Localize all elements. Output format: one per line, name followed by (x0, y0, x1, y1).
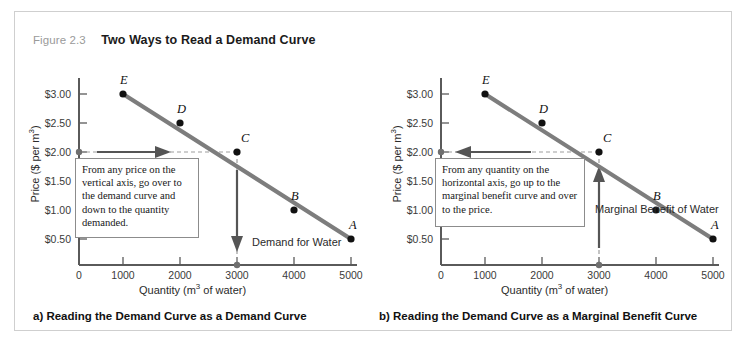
axis-marker-quantity (596, 262, 602, 268)
y-axis-title: Price ($ per m3) (391, 104, 403, 224)
callout-text-demand: From any price on the vertical axis, go … (75, 158, 199, 238)
data-point-C (595, 148, 602, 155)
x-tick-label-0: 0 (56, 269, 102, 281)
figure-title: Two Ways to Read a Demand Curve (101, 33, 315, 47)
x-tick-label-4000: 4000 (633, 269, 679, 281)
axis-marker-quantity (234, 262, 240, 268)
point-label-A: A (349, 218, 357, 233)
x-tick-label-2000: 2000 (157, 269, 203, 281)
panel-demand-curve: $3.00 $2.50 $2.00 $1.50 $1.00 $0.50 0 10… (19, 52, 371, 314)
data-point-D (176, 119, 183, 126)
data-point-A (709, 235, 716, 242)
point-label-C: C (603, 131, 611, 146)
point-label-D: D (177, 102, 186, 117)
figure-container: Figure 2.3 Two Ways to Read a Demand Cur… (14, 11, 732, 331)
x-axis-title: Quantity (m3 of water) (501, 284, 608, 296)
x-tick-label-1000: 1000 (462, 269, 508, 281)
x-axis-title: Quantity (m3 of water) (139, 284, 246, 296)
x-tick-label-0: 0 (418, 269, 464, 281)
x-tick-label-3000: 3000 (576, 269, 622, 281)
x-tick-label-5000: 5000 (328, 269, 374, 281)
arrow-curve-to-quantity (231, 170, 243, 252)
y-axis-title: Price ($ per m3) (29, 104, 41, 224)
point-label-C: C (241, 131, 249, 146)
panel-marginal-benefit-curve: $3.00 $2.50 $2.00 $1.50 $1.00 $0.50 0 10… (381, 52, 733, 314)
point-label-B: B (653, 189, 661, 204)
axis-marker-price (438, 149, 444, 155)
x-tick-label-2000: 2000 (519, 269, 565, 281)
x-tick-label-1000: 1000 (100, 269, 146, 281)
y-tick-label-3.00: $3.00 (27, 88, 71, 100)
data-point-D (538, 119, 545, 126)
y-tick-label-0.50: $0.50 (27, 233, 71, 245)
axis-marker-price (76, 149, 82, 155)
y-tick-label-3.00: $3.00 (389, 88, 433, 100)
point-label-E: E (120, 73, 128, 88)
data-point-C (233, 148, 240, 155)
point-label-D: D (539, 102, 548, 117)
caption-panel-a: a) Reading the Demand Curve as a Demand … (33, 310, 307, 322)
point-label-E: E (482, 73, 490, 88)
data-point-A (347, 235, 354, 242)
figure-number: Figure 2.3 (33, 34, 86, 46)
x-tick-label-4000: 4000 (271, 269, 317, 281)
y-tick-label-0.50: $0.50 (389, 233, 433, 245)
arrow-price-to-curve (97, 146, 171, 158)
caption-panel-b: b) Reading the Demand Curve as a Margina… (379, 310, 697, 322)
arrow-curve-to-price (455, 146, 531, 158)
point-label-B: B (291, 189, 299, 204)
data-point-E (119, 90, 126, 97)
figure-header: Figure 2.3 Two Ways to Read a Demand Cur… (33, 30, 316, 48)
callout-text-marginal-benefit: From any quantity on the horizontal axis… (435, 158, 585, 227)
point-label-A: A (711, 218, 719, 233)
data-point-B (290, 206, 297, 213)
curve-label-demand: Demand for Water (252, 236, 341, 248)
x-tick-label-3000: 3000 (214, 269, 260, 281)
x-tick-label-5000: 5000 (690, 269, 736, 281)
data-point-E (481, 90, 488, 97)
curve-label-marginal-benefit: Marginal Benefit of Water (595, 203, 719, 215)
